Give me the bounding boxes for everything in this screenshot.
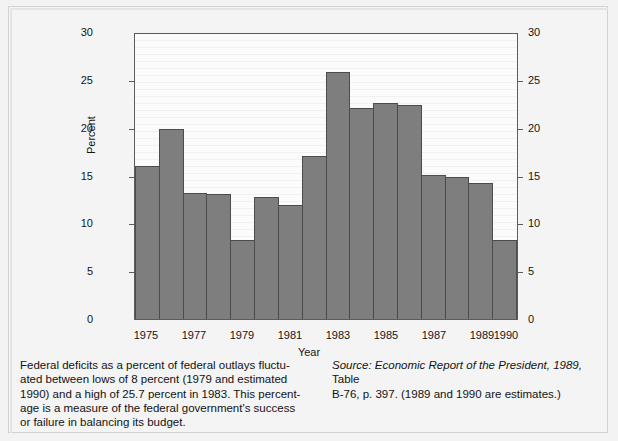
x-tick-1981: 1981 bbox=[270, 330, 310, 341]
source-note: Source: Economic Report of the President… bbox=[332, 358, 604, 401]
caption-line-1: Federal deficits as a percent of federal… bbox=[20, 358, 320, 372]
y-tick-right-20: 20 bbox=[528, 123, 568, 134]
y-tick-right-0: 0 bbox=[528, 314, 568, 325]
y-tick-left-30: 30 bbox=[53, 27, 93, 38]
x-tick-1990: 1990 bbox=[486, 330, 526, 341]
source-line-2: B-76, p. 397. (1989 and 1990 are estimat… bbox=[332, 387, 604, 401]
y-tickmark-left-5 bbox=[129, 272, 134, 273]
y-tick-left-15: 15 bbox=[53, 171, 93, 182]
x-tick-1979: 1979 bbox=[222, 330, 262, 341]
x-tick-1977: 1977 bbox=[174, 330, 214, 341]
plot-area bbox=[134, 33, 518, 320]
y-tick-left-5: 5 bbox=[53, 266, 93, 277]
bar-1980 bbox=[254, 197, 279, 319]
bar-1984 bbox=[349, 108, 374, 319]
y-tick-right-15: 15 bbox=[528, 171, 568, 182]
y-tickmark-right-5 bbox=[518, 272, 523, 273]
bar-1990 bbox=[492, 240, 517, 319]
bar-chart: Percent 303025252020151510105500 1975197… bbox=[0, 0, 618, 355]
x-axis-title: Year bbox=[0, 346, 618, 358]
caption-line-5: or failure in balancing its budget. bbox=[20, 415, 320, 429]
y-tickmark-right-20 bbox=[518, 129, 523, 130]
y-tick-left-10: 10 bbox=[53, 218, 93, 229]
y-tickmark-left-25 bbox=[129, 81, 134, 82]
bar-series bbox=[135, 34, 517, 319]
bar-1981 bbox=[278, 205, 303, 319]
y-tick-right-10: 10 bbox=[528, 218, 568, 229]
source-table: Table bbox=[332, 373, 360, 385]
x-tick-1983: 1983 bbox=[318, 330, 358, 341]
y-tickmark-right-25 bbox=[518, 81, 523, 82]
caption-line-4: age is a measure of the federal governme… bbox=[20, 401, 320, 415]
bar-1985 bbox=[373, 103, 398, 319]
x-tick-1987: 1987 bbox=[414, 330, 454, 341]
y-tickmark-left-15 bbox=[129, 177, 134, 178]
source-line-1: Source: Economic Report of the President… bbox=[332, 358, 604, 387]
bar-1975 bbox=[135, 166, 160, 319]
source-title: Economic Report of the President, 1989, bbox=[375, 359, 582, 371]
y-tickmark-right-15 bbox=[518, 177, 523, 178]
y-tick-right-5: 5 bbox=[528, 266, 568, 277]
y-tickmark-right-10 bbox=[518, 224, 523, 225]
bar-1987 bbox=[421, 175, 446, 319]
y-tickmark-left-10 bbox=[129, 224, 134, 225]
x-tick-1985: 1985 bbox=[366, 330, 406, 341]
bar-1986 bbox=[397, 105, 422, 319]
bar-1989 bbox=[468, 183, 493, 319]
y-tick-right-25: 25 bbox=[528, 75, 568, 86]
y-tick-right-30: 30 bbox=[528, 27, 568, 38]
bar-1988 bbox=[445, 177, 470, 320]
bar-1978 bbox=[206, 194, 231, 319]
caption-text: Federal deficits as a percent of federal… bbox=[20, 358, 320, 429]
source-label: Source: bbox=[332, 359, 372, 371]
bar-1983 bbox=[326, 72, 351, 319]
bar-1982 bbox=[302, 156, 327, 319]
x-tick-1975: 1975 bbox=[126, 330, 166, 341]
y-tick-left-25: 25 bbox=[53, 75, 93, 86]
y-tick-left-0: 0 bbox=[53, 314, 93, 325]
bar-1977 bbox=[183, 193, 208, 319]
y-tickmark-left-20 bbox=[129, 129, 134, 130]
caption-line-2: ated between lows of 8 percent (1979 and… bbox=[20, 372, 320, 386]
chart-page: Percent 303025252020151510105500 1975197… bbox=[0, 0, 618, 441]
bar-1976 bbox=[159, 129, 184, 319]
bar-1979 bbox=[230, 240, 255, 319]
caption-line-3: 1990) and a high of 25.7 percent in 1983… bbox=[20, 387, 320, 401]
y-tick-left-20: 20 bbox=[53, 123, 93, 134]
